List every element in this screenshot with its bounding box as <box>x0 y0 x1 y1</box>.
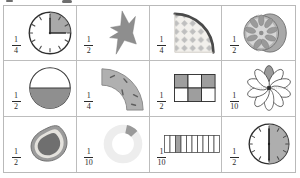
fraction-cell-half-star[interactable]: 1 2 <box>77 6 150 61</box>
fraction-numerator: 1 <box>8 92 24 100</box>
fraction-numerator: 1 <box>226 36 242 44</box>
fraction-label: 1 2 <box>8 148 24 167</box>
clock-right-half-shaded-icon <box>247 122 291 166</box>
circle-bottom-half-shaded-icon <box>28 66 72 110</box>
cell-artwork <box>97 6 149 60</box>
avocado-half-icon <box>27 123 73 165</box>
flower-ten-petals-icon <box>247 66 291 110</box>
fraction-label: 1 4 <box>8 36 24 55</box>
fraction-numerator: 1 <box>81 36 97 44</box>
fraction-numerator: 1 <box>226 148 242 156</box>
fraction-label: 1 10 <box>81 148 97 167</box>
fraction-denominator: 2 <box>154 103 170 111</box>
fraction-denominator: 2 <box>226 159 242 167</box>
fraction-denominator: 4 <box>154 47 170 55</box>
fraction-cell-clock-quarter[interactable]: 1 4 <box>4 6 77 61</box>
half-star-icon <box>106 10 140 56</box>
fraction-numerator: 1 <box>81 92 97 100</box>
fraction-label: 1 2 <box>8 92 24 111</box>
cell-artwork <box>97 61 149 115</box>
fraction-label: 1 10 <box>226 92 242 111</box>
fraction-denominator: 4 <box>81 103 97 111</box>
fraction-denominator: 10 <box>226 103 242 111</box>
cell-artwork <box>170 6 222 60</box>
donut-ring-tenth-shaded-icon <box>102 123 144 165</box>
cell-artwork <box>24 61 76 115</box>
fraction-cell-bar-ten[interactable]: 1 10 <box>150 117 223 172</box>
fraction-cell-donut-ring[interactable]: 1 10 <box>77 117 150 172</box>
fraction-denominator: 4 <box>8 47 24 55</box>
fraction-denominator: 2 <box>8 103 24 111</box>
fraction-cell-quarter-circle-pattern[interactable]: 1 4 <box>150 6 223 61</box>
cell-artwork <box>24 6 76 60</box>
cell-artwork <box>242 6 295 60</box>
fraction-denominator: 2 <box>8 159 24 167</box>
fraction-numerator: 1 <box>154 36 170 44</box>
page-artifact-mark <box>6 0 13 2</box>
half-citrus-slice-icon <box>246 13 292 53</box>
cell-artwork <box>164 117 222 172</box>
fraction-denominator: 10 <box>81 159 97 167</box>
cell-artwork <box>242 61 295 115</box>
fraction-cell-circle-bottom-half[interactable]: 1 2 <box>4 61 77 116</box>
fraction-cell-quarter-annulus[interactable]: 1 4 <box>77 61 150 116</box>
fraction-label: 1 4 <box>154 36 170 55</box>
fraction-grid: 1 4 <box>3 5 296 173</box>
fraction-label: 1 2 <box>81 36 97 55</box>
quarter-annulus-road-icon <box>99 65 147 111</box>
grid-3x2-half-shaded-icon <box>174 69 216 107</box>
fraction-numerator: 1 <box>154 92 170 100</box>
fraction-cell-clock-half[interactable]: 1 2 <box>222 117 295 172</box>
bar-ten-segments-icon <box>164 135 220 153</box>
fraction-label: 1 2 <box>226 148 242 167</box>
fraction-cell-citrus-half[interactable]: 1 2 <box>222 6 295 61</box>
fraction-numerator: 1 <box>8 148 24 156</box>
cell-artwork <box>24 117 76 172</box>
fraction-denominator: 2 <box>226 47 242 55</box>
quarter-circle-patterned-icon <box>172 11 218 55</box>
cell-artwork <box>97 117 149 172</box>
fraction-denominator: 2 <box>81 47 97 55</box>
fraction-label: 1 2 <box>154 92 170 111</box>
page-artifact-mark <box>62 0 72 3</box>
fraction-numerator: 1 <box>226 92 242 100</box>
fraction-numerator: 1 <box>8 36 24 44</box>
clock-quarter-shaded-icon <box>27 10 73 56</box>
cell-artwork <box>242 117 295 172</box>
worksheet-page: 1 4 <box>0 0 300 178</box>
fraction-numerator: 1 <box>81 148 97 156</box>
fraction-label: 1 2 <box>226 36 242 55</box>
fraction-cell-avocado-half[interactable]: 1 2 <box>4 117 77 172</box>
fraction-cell-grid-3x2[interactable]: 1 2 <box>150 61 223 116</box>
fraction-cell-flower[interactable]: 1 10 <box>222 61 295 116</box>
fraction-label: 1 4 <box>81 92 97 111</box>
cell-artwork <box>170 61 222 115</box>
